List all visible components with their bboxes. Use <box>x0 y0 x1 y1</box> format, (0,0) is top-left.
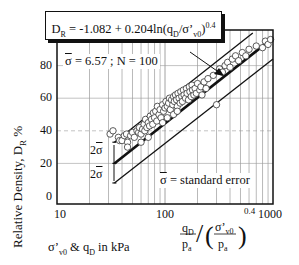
data-point <box>243 53 249 59</box>
data-point <box>145 134 151 140</box>
ylabel-text: Relative Density, D <box>10 146 25 248</box>
data-point <box>124 144 130 150</box>
frac-exponent: 0.4 <box>244 206 255 216</box>
units-note: σ’v0 & qD in kPa <box>48 240 130 257</box>
se-text: = standard error <box>167 173 250 187</box>
data-point <box>138 139 144 145</box>
fraction-slash: / <box>196 219 204 248</box>
y-tick-60: 60 <box>40 90 52 104</box>
x-tick-1000: 1000 <box>258 207 282 221</box>
data-point <box>110 128 116 134</box>
data-point <box>235 58 241 64</box>
frac1-num: qD <box>182 221 194 237</box>
equation-box: DR = -1.082 + 0.204ln(qD/σ’v0)0.4 <box>45 11 222 40</box>
data-point <box>159 119 165 125</box>
band-upper-sigma: σ <box>96 143 102 157</box>
band-lower-sigma: σ <box>96 167 102 181</box>
band-label-upper: 2σ <box>90 143 102 158</box>
f2ns: v0 <box>225 227 233 236</box>
data-point <box>164 115 170 121</box>
data-point <box>199 92 205 98</box>
data-point <box>246 46 252 52</box>
data-point <box>174 108 180 114</box>
frac1-den: pa <box>182 237 192 253</box>
data-point <box>213 102 219 108</box>
f2n: σ’ <box>215 220 225 234</box>
data-point <box>227 64 233 70</box>
stats-values: = 6.57 ; N = 100 <box>72 54 158 68</box>
eq-sup: 0.4 <box>205 21 215 30</box>
se-sigma-bar: σ <box>160 173 167 187</box>
x-tick-10: 10 <box>54 207 66 221</box>
units-mid: & q <box>67 240 89 254</box>
sigma-bar: σ <box>65 54 72 68</box>
ylabel-sub: R <box>18 140 28 146</box>
frac2-den: pa <box>218 237 228 253</box>
paren-open: ( <box>205 221 214 250</box>
eq-rhs-b: /σ’ <box>179 22 193 36</box>
y-tick-0: 0 <box>46 189 52 203</box>
y-axis-label: Relative Density, DR % <box>10 126 28 248</box>
units-sub1: v0 <box>59 248 67 257</box>
units-tail: in kPa <box>95 240 130 254</box>
paren-close: ) <box>238 221 247 250</box>
units-sigma: σ’ <box>48 240 59 254</box>
y-tick-80: 80 <box>40 58 52 72</box>
data-point <box>203 85 209 91</box>
ylabel-tail: % <box>10 126 25 140</box>
f1ds: a <box>188 244 192 253</box>
eq-rhs-a: = -1.082 + 0.204ln(q <box>66 22 173 36</box>
y-tick-40: 40 <box>40 123 52 137</box>
y-tick-20: 20 <box>40 156 52 170</box>
f2ds: a <box>224 244 228 253</box>
data-point <box>253 43 259 49</box>
stats-label: σ = 6.57 ; N = 100 <box>63 54 160 69</box>
x-tick-100: 100 <box>156 207 174 221</box>
band-label-lower: 2σ <box>90 167 102 182</box>
eq-lhs: D <box>52 22 61 36</box>
frac2-num: σ’v0 <box>215 220 233 236</box>
standard-error-note: σ = standard error <box>158 173 252 188</box>
